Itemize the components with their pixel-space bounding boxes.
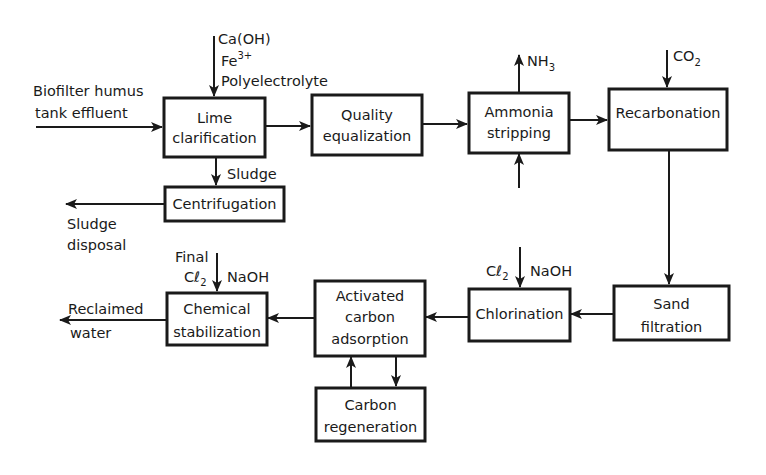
naoh-label: NaOH: [530, 263, 572, 279]
box-label: adsorption: [331, 331, 408, 347]
process-chemical-stabilization: Chemical stabilization: [167, 293, 267, 345]
box-label: Quality: [341, 107, 393, 123]
cl-subscript: 2: [200, 277, 206, 288]
process-lime-clarification: Lime clarification: [164, 98, 265, 157]
box-label: Ammonia: [484, 104, 553, 120]
influent-label: Biofilter humus: [33, 83, 143, 99]
cl-text: Cℓ: [184, 269, 200, 285]
box-label: Activated: [336, 288, 405, 304]
reclaimed-label: water: [70, 325, 111, 341]
caoh-label: Ca(OH): [218, 31, 271, 47]
reclaimed-label: Reclaimed: [68, 301, 144, 317]
polyelectrolyte-label: Polyelectrolyte: [221, 73, 328, 89]
fe-text: Fe: [221, 53, 238, 69]
nh3-subscript: 3: [549, 62, 555, 73]
fe-label: Fe3+: [221, 50, 252, 69]
process-chlorination: Chlorination: [469, 289, 570, 341]
sludge-label: Sludge: [227, 166, 277, 182]
label-stabilization-chemicals: Final Cℓ2 NaOH: [175, 249, 269, 288]
sludge-disposal-label: Sludge: [67, 216, 117, 232]
box-label: stabilization: [173, 324, 261, 340]
nh3-text: NH: [527, 53, 549, 69]
final-cl2-label: Cℓ2: [184, 269, 207, 288]
cl-subscript: 2: [502, 271, 508, 282]
box-label: Carbon: [344, 397, 396, 413]
process-recarbonation: Recarbonation: [609, 89, 727, 150]
process-centrifugation: Centrifugation: [165, 187, 284, 221]
box-label: stripping: [487, 125, 551, 141]
box-label: Lime: [197, 110, 232, 126]
process-sand-filtration: Sand filtration: [614, 286, 729, 340]
sludge-disposal-label: disposal: [67, 237, 126, 253]
box-label: Centrifugation: [172, 196, 276, 212]
fe-superscript: 3+: [237, 50, 252, 61]
label-influent: Biofilter humus tank effluent: [33, 83, 143, 121]
flow-diagram: Lime clarification Centrifugation Qualit…: [0, 0, 766, 475]
box-label: Recarbonation: [615, 105, 720, 121]
cl-text: Cℓ: [486, 263, 502, 279]
box-label: carbon: [345, 309, 395, 325]
box-label: Chemical: [183, 301, 250, 317]
process-carbon-regeneration: Carbon regeneration: [316, 388, 425, 441]
label-sludge-disposal: Sludge disposal: [67, 216, 126, 253]
cl2-label: Cℓ2: [486, 263, 509, 282]
box-label: clarification: [172, 130, 257, 146]
box-label: equalization: [323, 128, 412, 144]
box-label: Chlorination: [475, 306, 563, 322]
label-lime-chemicals: Ca(OH) Fe3+ Polyelectrolyte: [218, 31, 328, 89]
co2-text: CO: [673, 48, 695, 64]
nh3-label: NH3: [527, 53, 555, 73]
co2-label: CO2: [673, 48, 701, 68]
box-label: Sand: [653, 296, 689, 312]
label-chlorination-chemicals: Cℓ2 NaOH: [486, 263, 572, 282]
final-naoh-label: NaOH: [227, 269, 269, 285]
process-activated-carbon-adsorption: Activated carbon adsorption: [315, 281, 425, 356]
box-label: regeneration: [324, 419, 417, 435]
box-label: filtration: [641, 319, 702, 335]
influent-label: tank effluent: [35, 105, 128, 121]
process-ammonia-stripping: Ammonia stripping: [469, 93, 569, 153]
co2-subscript: 2: [695, 57, 701, 68]
process-quality-equalization: Quality equalization: [312, 95, 422, 155]
final-label: Final: [175, 249, 208, 265]
